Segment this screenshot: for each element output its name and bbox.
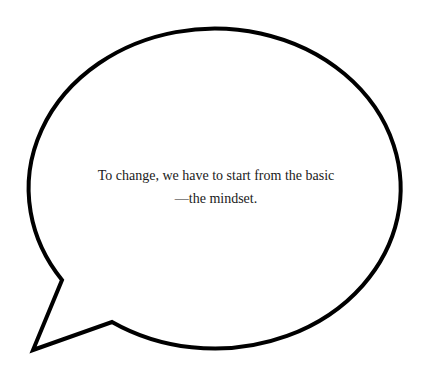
speech-bubble-text: To change, we have to start from the bas…	[96, 164, 336, 210]
canvas: To change, we have to start from the bas…	[0, 0, 432, 375]
